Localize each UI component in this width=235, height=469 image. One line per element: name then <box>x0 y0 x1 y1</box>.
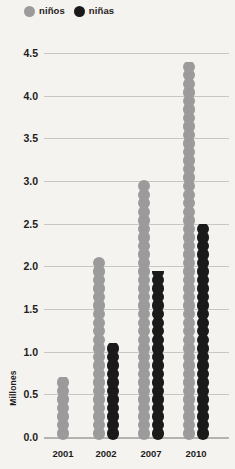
chart-legend: niñosniñas <box>24 3 114 19</box>
dot-column-chart: niñosniñas 0.00.51.01.52.02.53.03.54.04.… <box>0 0 235 469</box>
x-axis-tick-label-2002: 2002 <box>95 449 116 459</box>
legend-item-ninas[interactable]: niñas <box>74 6 114 17</box>
legend-label-ninas: niñas <box>89 6 114 16</box>
dot <box>107 343 119 354</box>
legend-item-ninos[interactable]: niños <box>24 6 65 17</box>
x-axis-tick-label-2001: 2001 <box>52 449 73 459</box>
dot-column-niños-2002 <box>93 45 105 445</box>
dot-top-clipped <box>197 224 209 235</box>
dot-column-niños-2010 <box>183 45 195 445</box>
dot-column-niñas-2010 <box>197 45 209 445</box>
dot-top-clipped <box>152 271 164 278</box>
dot <box>152 271 164 278</box>
x-axis-tick-label-2010: 2010 <box>185 449 206 459</box>
dot <box>57 377 69 388</box>
dot-column-niñas-2002 <box>107 45 119 445</box>
dot-top-clipped <box>107 343 119 354</box>
dot <box>197 224 209 235</box>
legend-label-ninos: niños <box>39 6 65 16</box>
dot <box>183 62 195 73</box>
dot-column-niños-2001 <box>57 45 69 445</box>
y-axis-title: Millones <box>8 353 18 423</box>
plot-area: 0.00.51.01.52.02.53.03.54.04.5 Millones <box>0 45 235 445</box>
dot-column-niñas-2007 <box>152 45 164 445</box>
dot-top-clipped <box>183 62 195 73</box>
x-axis-labels: 2001200220072010 <box>0 449 235 467</box>
dot-column-niños-2007 <box>138 45 150 445</box>
dot-top-clipped <box>57 377 69 388</box>
x-axis-tick-label-2007: 2007 <box>140 449 161 459</box>
dot-columns <box>0 45 235 445</box>
legend-swatch-ninas-icon <box>74 6 85 17</box>
legend-swatch-ninos-icon <box>24 6 35 17</box>
